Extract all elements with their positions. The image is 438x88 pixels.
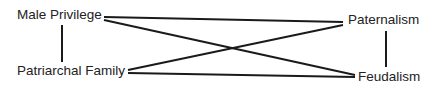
node-feudalism: Feudalism [358, 69, 420, 85]
edge-patriarchal-family-feudalism [128, 73, 355, 77]
node-paternalism: Paternalism [348, 12, 419, 28]
edge-male-privilege-paternalism [104, 17, 343, 22]
diagram-canvas: Male Privilege Patriarchal Family Patern… [0, 0, 438, 88]
node-patriarchal-family: Patriarchal Family [17, 63, 125, 79]
node-male-privilege: Male Privilege [17, 7, 102, 23]
